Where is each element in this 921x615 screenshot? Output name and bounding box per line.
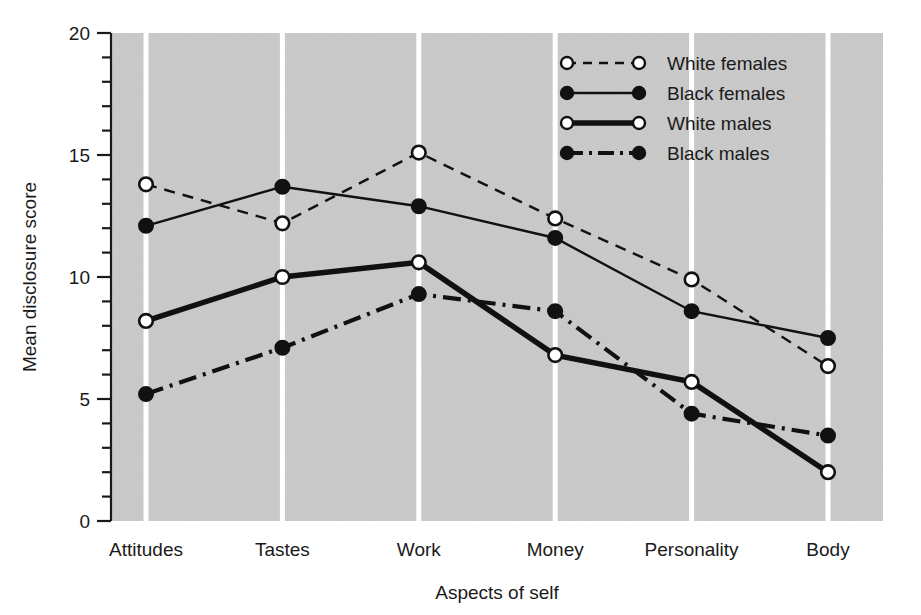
data-point [821,331,835,345]
data-point [276,270,290,284]
data-point [821,465,835,479]
x-tick-label-tastes: Tastes [255,539,310,560]
legend-label: Black females [667,83,785,104]
data-point [548,231,562,245]
data-point [548,212,562,226]
legend-marker [633,147,646,160]
x-tick-label-body: Body [806,539,850,560]
y-axis-title: Mean disclosure score [19,182,40,372]
x-tick-label-money: Money [527,539,585,560]
data-point [139,219,153,233]
data-point [412,287,426,301]
legend-marker [561,147,574,160]
legend-label: Black males [667,143,769,164]
data-point [548,348,562,362]
data-point [275,180,289,194]
y-tick-label-10: 10 [69,267,90,288]
legend-marker [633,87,646,100]
legend-label: White females [667,53,787,74]
legend-label: White males [667,113,772,134]
data-point [548,304,562,318]
x-tick-label-personality: Personality [645,539,739,560]
x-tick-label-attitudes: Attitudes [109,539,183,560]
data-point [412,256,426,270]
line-chart: 05101520 AttitudesTastesWorkMoneyPersona… [0,0,921,615]
data-point [139,314,153,328]
data-point [684,304,698,318]
legend-marker [633,117,645,129]
y-tick-label-15: 15 [69,145,90,166]
data-point [276,217,290,231]
x-tick-label-work: Work [397,539,441,560]
data-point [139,387,153,401]
legend-marker [561,87,574,100]
x-axis-title: Aspects of self [435,582,559,603]
data-point [412,199,426,213]
data-point [685,273,699,287]
legend-marker [561,57,573,69]
data-point [684,406,698,420]
data-point [685,375,699,389]
y-tick-label-20: 20 [69,23,90,44]
legend-marker [561,117,573,129]
y-tick-label-0: 0 [79,511,90,532]
data-point [821,359,835,373]
chart-figure: 05101520 AttitudesTastesWorkMoneyPersona… [0,0,921,615]
data-point [139,177,153,191]
y-tick-label-5: 5 [79,389,90,410]
data-point [275,341,289,355]
legend-marker [633,57,645,69]
data-point [821,428,835,442]
data-point [412,146,426,160]
plot-area-noise [111,33,883,521]
